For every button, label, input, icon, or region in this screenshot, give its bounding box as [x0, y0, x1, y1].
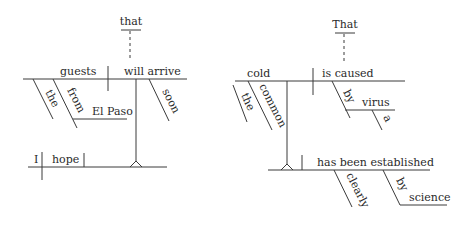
word-science: science: [409, 191, 451, 204]
word-guests: guests: [60, 65, 97, 78]
word-common: common: [256, 81, 289, 129]
word-clearly: clearly: [343, 170, 372, 210]
word-a: a: [380, 112, 395, 124]
diagram-right: That cold is caused the common by virus …: [233, 18, 451, 211]
word-virus: virus: [361, 96, 390, 109]
word-is-caused: is caused: [322, 67, 374, 80]
modifier-line-a: [372, 110, 382, 130]
word-has-been-established: has been established: [317, 156, 434, 169]
word-that: that: [120, 15, 143, 28]
stilt-fork: [130, 161, 142, 167]
diagram-left: that guests will arrive the from El Paso…: [23, 15, 187, 180]
word-that-capital: That: [332, 18, 358, 31]
word-from: from: [64, 85, 88, 115]
word-will-arrive: will arrive: [124, 65, 181, 78]
word-el-paso: El Paso: [92, 105, 133, 118]
word-cold: cold: [247, 67, 270, 80]
sentence-diagrams: that guests will arrive the from El Paso…: [0, 0, 470, 225]
word-i: I: [34, 153, 38, 166]
word-hope: hope: [52, 153, 79, 166]
stilt-fork: [281, 164, 293, 170]
word-soon: soon: [159, 86, 182, 115]
